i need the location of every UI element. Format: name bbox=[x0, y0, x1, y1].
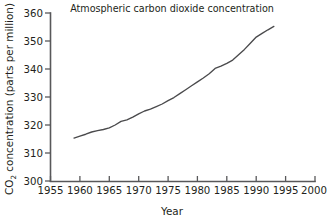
svg-text:CO2 concentration (parts per m: CO2 concentration (parts per million) bbox=[3, 3, 18, 195]
chart-figure: Atmospheric carbon dioxide concentration… bbox=[0, 0, 329, 219]
y-axis-ticks: 360 350 340 330 320 310 300 bbox=[24, 8, 51, 187]
y-tick-label: 350 bbox=[24, 36, 43, 47]
co2-line-chart: Atmospheric carbon dioxide concentration… bbox=[0, 0, 329, 219]
x-tick-label: 1965 bbox=[96, 185, 122, 196]
y-axis-title-rest: concentration (parts per million) bbox=[3, 3, 15, 175]
x-tick-label: 1985 bbox=[214, 185, 240, 196]
x-tick-label: 1970 bbox=[126, 185, 152, 196]
chart-title: Atmospheric carbon dioxide concentration bbox=[70, 3, 274, 14]
x-axis-title: Year bbox=[160, 205, 184, 217]
x-axis-ticks: 1955 1960 1965 1970 1975 1980 1985 1990 … bbox=[38, 176, 327, 196]
y-tick-label: 310 bbox=[24, 148, 43, 159]
y-tick-label: 360 bbox=[24, 8, 43, 19]
x-tick-label: 1960 bbox=[67, 185, 93, 196]
x-tick-label: 1975 bbox=[155, 185, 181, 196]
y-tick-label: 340 bbox=[24, 64, 43, 75]
x-tick-label: 1995 bbox=[273, 185, 299, 196]
y-axis-title-main: CO bbox=[3, 180, 15, 195]
x-tick-label: 1955 bbox=[38, 185, 64, 196]
x-tick-label: 2000 bbox=[301, 185, 327, 196]
y-axis-title: CO2 concentration (parts per million) bbox=[3, 3, 18, 195]
x-tick-label: 1990 bbox=[243, 185, 269, 196]
y-tick-label: 320 bbox=[24, 120, 43, 131]
co2-data-line bbox=[74, 26, 274, 138]
x-tick-label: 1980 bbox=[184, 185, 210, 196]
y-tick-label: 330 bbox=[24, 92, 43, 103]
